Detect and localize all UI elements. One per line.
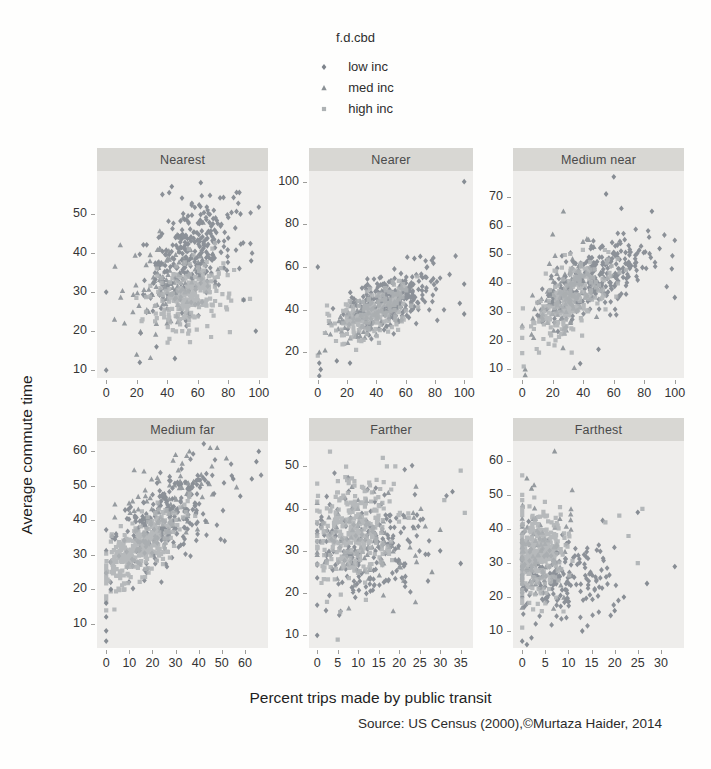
x-axis-tick-mark bbox=[338, 650, 339, 654]
x-axis-title: Percent trips made by public transit bbox=[30, 689, 711, 707]
x-axis-tick-mark bbox=[198, 380, 199, 384]
x-axis-tick-label: 80 bbox=[420, 386, 450, 400]
y-axis-tick-mark bbox=[507, 369, 511, 370]
panel-strip-title: Nearest bbox=[97, 148, 268, 171]
y-axis-tick-mark bbox=[91, 624, 95, 625]
panel-plot bbox=[513, 441, 684, 648]
diamond-icon bbox=[317, 60, 331, 74]
x-axis-tick-mark bbox=[152, 650, 153, 654]
y-axis-tick-label: 50 bbox=[53, 478, 87, 492]
y-axis-tick-mark bbox=[507, 563, 511, 564]
y-axis-tick-label: 30 bbox=[469, 304, 503, 318]
x-axis-tick-mark bbox=[440, 650, 441, 654]
y-axis-tick-mark bbox=[303, 352, 307, 353]
x-axis-tick-mark bbox=[347, 380, 348, 384]
panel-strip-title: Medium far bbox=[97, 418, 268, 441]
x-axis-tick-label: 40 bbox=[152, 386, 182, 400]
x-axis-tick-mark bbox=[435, 380, 436, 384]
y-axis-tick-mark bbox=[91, 214, 95, 215]
x-axis-tick-mark bbox=[106, 650, 107, 654]
panel-plot bbox=[97, 441, 268, 648]
y-axis-tick-mark bbox=[507, 283, 511, 284]
x-axis-tick-mark bbox=[568, 650, 569, 654]
scatter-outliers-high-inc bbox=[522, 364, 526, 368]
x-axis-tick-label: 20 bbox=[332, 386, 362, 400]
y-axis-tick-mark bbox=[507, 597, 511, 598]
x-axis-tick-mark bbox=[358, 650, 359, 654]
y-axis-tick-mark bbox=[303, 593, 307, 594]
y-axis-tick-label: 50 bbox=[265, 458, 299, 472]
x-axis-tick-mark bbox=[379, 650, 380, 654]
x-axis-tick-mark bbox=[464, 380, 465, 384]
x-axis-tick-mark bbox=[167, 380, 168, 384]
y-axis-tick-label: 40 bbox=[469, 275, 503, 289]
x-axis-tick-mark bbox=[406, 380, 407, 384]
y-axis-tick-mark bbox=[91, 520, 95, 521]
legend-item-label: high inc bbox=[348, 101, 393, 116]
y-axis-tick-mark bbox=[507, 631, 511, 632]
y-axis-tick-label: 40 bbox=[53, 245, 87, 259]
y-axis-tick-mark bbox=[303, 466, 307, 467]
legend-item: low inc bbox=[317, 59, 394, 74]
y-axis-tick-mark bbox=[507, 341, 511, 342]
y-axis-tick-mark bbox=[91, 370, 95, 371]
y-axis-tick-label: 80 bbox=[265, 216, 299, 230]
x-axis-tick-mark bbox=[228, 380, 229, 384]
legend-item-label: low inc bbox=[348, 59, 388, 74]
x-axis-tick-mark bbox=[176, 650, 177, 654]
y-axis-tick-mark bbox=[303, 509, 307, 510]
x-axis-tick-label: 40 bbox=[568, 386, 598, 400]
y-axis-tick-label: 60 bbox=[53, 443, 87, 457]
y-axis-tick-mark bbox=[91, 331, 95, 332]
x-axis-tick-label: 100 bbox=[244, 386, 274, 400]
x-axis-tick-mark bbox=[399, 650, 400, 654]
y-axis-tick-mark bbox=[91, 486, 95, 487]
y-axis-tick-mark bbox=[303, 267, 307, 268]
square-icon bbox=[317, 102, 331, 116]
x-axis-tick-mark bbox=[615, 650, 616, 654]
y-axis-tick-mark bbox=[507, 254, 511, 255]
y-axis-tick-label: 60 bbox=[469, 218, 503, 232]
x-axis-tick-mark bbox=[259, 380, 260, 384]
y-axis-tick-label: 30 bbox=[469, 555, 503, 569]
panel-plot bbox=[513, 171, 684, 378]
y-axis-tick-label: 20 bbox=[53, 323, 87, 337]
y-axis-tick-mark bbox=[507, 461, 511, 462]
x-axis-tick-mark bbox=[317, 650, 318, 654]
legend-items: low incmed inchigh inc bbox=[317, 53, 394, 122]
y-axis-tick-label: 100 bbox=[265, 174, 299, 188]
y-axis-tick-label: 10 bbox=[469, 623, 503, 637]
y-axis-tick-label: 40 bbox=[265, 302, 299, 316]
y-axis-tick-label: 30 bbox=[53, 547, 87, 561]
y-axis-tick-mark bbox=[91, 589, 95, 590]
y-axis-tick-mark bbox=[303, 310, 307, 311]
y-axis-tick-label: 50 bbox=[469, 487, 503, 501]
y-axis-tick-label: 50 bbox=[53, 206, 87, 220]
y-axis-tick-label: 30 bbox=[265, 543, 299, 557]
y-axis-tick-label: 10 bbox=[265, 627, 299, 641]
y-axis-tick-label: 40 bbox=[469, 521, 503, 535]
x-axis-tick-label: 20 bbox=[538, 386, 568, 400]
y-axis-tick-label: 70 bbox=[469, 189, 503, 203]
x-axis-tick-mark bbox=[661, 650, 662, 654]
x-axis-tick-label: 40 bbox=[361, 386, 391, 400]
y-axis-tick-label: 10 bbox=[469, 361, 503, 375]
x-axis-tick-label: 0 bbox=[303, 386, 333, 400]
panel-strip-title: Medium near bbox=[513, 148, 684, 171]
x-axis-tick-mark bbox=[592, 650, 593, 654]
x-axis-tick-mark bbox=[522, 650, 523, 654]
x-axis-tick-mark bbox=[199, 650, 200, 654]
y-axis-tick-mark bbox=[91, 253, 95, 254]
x-axis-tick-mark bbox=[137, 380, 138, 384]
x-axis-tick-label: 0 bbox=[507, 386, 537, 400]
x-axis-tick-mark bbox=[376, 380, 377, 384]
source-credit: Source: US Census (2000),©Murtaza Haider… bbox=[358, 716, 662, 731]
y-axis-tick-mark bbox=[303, 182, 307, 183]
y-axis-tick-label: 30 bbox=[53, 284, 87, 298]
y-axis-tick-mark bbox=[507, 529, 511, 530]
y-axis-tick-label: 20 bbox=[469, 333, 503, 347]
y-axis-tick-label: 20 bbox=[53, 581, 87, 595]
x-axis-tick-mark bbox=[420, 650, 421, 654]
x-axis-tick-mark bbox=[245, 650, 246, 654]
x-axis-tick-label: 100 bbox=[449, 386, 479, 400]
